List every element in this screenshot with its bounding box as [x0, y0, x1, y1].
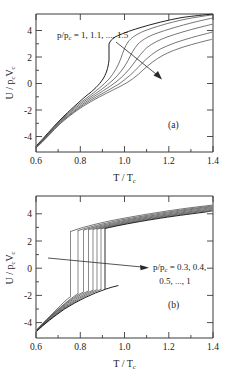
panel-b-upper-branches	[71, 205, 213, 231]
ytick-b-4: -4	[24, 318, 32, 328]
annot-b-rest: = 0.3, 0.4,	[167, 262, 206, 272]
annot-b-prefix: p/p	[153, 262, 165, 272]
panel-b-label: (b)	[168, 300, 179, 311]
panel-b-xlabel: T / Tc	[113, 358, 136, 370]
panel-a-x-ticklabels: 0.6 0.8 1.0 1.2 1.4	[30, 156, 219, 166]
svg-text:U / pcVc: U / pcVc	[4, 251, 16, 284]
svg-text:p/pc = 0.3, 0.4,: p/pc = 0.3, 0.4,	[153, 262, 206, 273]
panel-b-x-ticklabels: 0.6 0.8 1.0 1.2 1.4	[30, 342, 219, 352]
svg-text:T / Tc: T / Tc	[113, 172, 136, 184]
xtick-b-2: 1.0	[119, 342, 131, 352]
panel-a-label: (a)	[168, 120, 179, 131]
xtick-4: 1.4	[207, 156, 219, 166]
ytick-3: -2	[24, 106, 32, 116]
ytick-b-0: 4	[27, 209, 32, 219]
panel-b-jumps	[71, 229, 106, 297]
figure-root: p/pc = 1, 1.1, ..., 1.5 (a) 0.6 0.8 1.0 …	[0, 0, 232, 378]
xtick-0: 0.6	[30, 156, 42, 166]
panel-a-annotation: p/pc = 1, 1.1, ..., 1.5	[57, 30, 162, 80]
xlabel-sub: c	[133, 177, 136, 184]
panel-b-annotation: p/pc = 0.3, 0.4, 0.5, ..., 1	[153, 262, 206, 286]
ylabel-b-sub2: c	[9, 251, 16, 254]
ytick-b-2: 0	[27, 264, 32, 274]
ytick-b-3: -2	[24, 291, 32, 301]
curve-b-1-lower	[37, 286, 118, 331]
annot-a-prefix: p/p	[57, 30, 69, 40]
curve-b-0.9-lower	[37, 289, 101, 330]
panel-b-y-ticklabels: 4 2 0 -2 -4	[24, 209, 32, 328]
annot-a-rest: = 1, 1.1, ..., 1.5	[71, 30, 128, 40]
panel-a-xlabel: T / Tc	[113, 172, 136, 184]
xlabel-b-sub: c	[133, 363, 136, 370]
panel-b-annotation-arrow	[48, 258, 149, 270]
xtick-b-0: 0.6	[30, 342, 42, 352]
xtick-1: 0.8	[74, 156, 86, 166]
ytick-4: -4	[24, 132, 32, 142]
xtick-b-4: 1.4	[207, 342, 219, 352]
ylabel-sub2: c	[9, 66, 16, 69]
panel-a-arrow-line	[116, 42, 161, 78]
ytick-1: 2	[27, 53, 32, 63]
annot-b-line2: 0.5, ..., 1	[159, 276, 191, 286]
ytick-2: 0	[27, 79, 32, 89]
curve-a-1.3	[37, 24, 212, 146]
xtick-3: 1.2	[163, 156, 175, 166]
panel-b-lower-branches	[37, 286, 118, 331]
panel-a-y-ticklabels: 4 2 0 -2 -4	[24, 26, 32, 142]
svg-text:U / pcVc: U / pcVc	[4, 66, 16, 99]
curve-a-1.5	[37, 39, 212, 147]
ytick-0: 4	[27, 26, 32, 36]
svg-text:p/pc = 1, 1.1, ..., 1.5: p/pc = 1, 1.1, ..., 1.5	[57, 30, 129, 41]
panel-a: p/pc = 1, 1.1, ..., 1.5 (a) 0.6 0.8 1.0 …	[0, 0, 232, 190]
panel-a-ylabel: U / pcVc	[4, 66, 16, 99]
xtick-b-3: 1.2	[163, 342, 175, 352]
ytick-b-1: 2	[27, 237, 32, 247]
panel-a-arrow-head	[154, 71, 163, 80]
panel-b-plot: p/pc = 0.3, 0.4, 0.5, ..., 1 (b) 0.6 0.8…	[0, 188, 232, 378]
panel-a-plot: p/pc = 1, 1.1, ..., 1.5 (a) 0.6 0.8 1.0 …	[0, 0, 232, 190]
xtick-2: 1.0	[119, 156, 131, 166]
xtick-b-1: 0.8	[74, 342, 86, 352]
svg-text:T / Tc: T / Tc	[113, 358, 136, 370]
panel-b-ylabel: U / pcVc	[4, 251, 16, 284]
panel-b: p/pc = 0.3, 0.4, 0.5, ..., 1 (b) 0.6 0.8…	[0, 188, 232, 378]
